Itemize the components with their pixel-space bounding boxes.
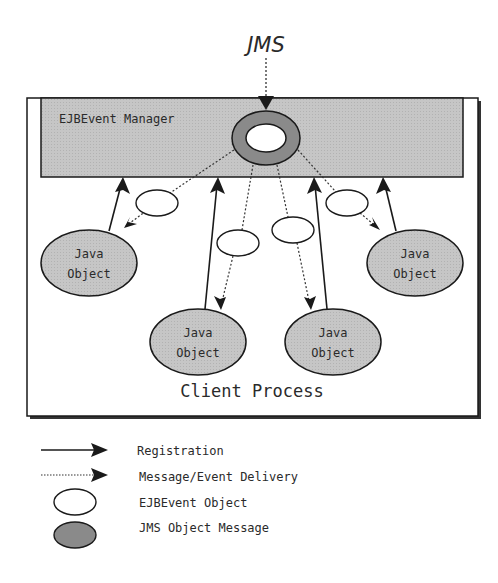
ejbevent-object-icon [326,190,368,216]
ejbevent-object-icon [246,124,286,152]
manager-label: EJBEvent Manager [59,112,175,126]
client-process-label: Client Process [180,381,323,401]
java-object-label: Object [393,267,436,281]
java-object-4 [367,230,463,296]
legend-label-registration: Registration [137,444,224,458]
legend-label-jms-message: JMS Object Message [139,521,269,535]
java-object-3 [285,309,381,375]
java-object-2 [150,309,246,375]
legend-ejbevent-object-icon [54,489,96,515]
legend-jms-message-icon [54,522,96,548]
ejbevent-object-icon [217,230,259,256]
java-object-label: Java [75,247,104,261]
ejbevent-diagram: JMS EJBEvent Manager Client Process Java… [0,0,498,583]
java-object-label: Java [319,326,348,340]
ejbevent-object-icon [272,217,314,243]
java-object-label: Java [184,326,213,340]
java-object-label: Object [311,346,354,360]
java-object-label: Object [176,346,219,360]
legend-dotted-arrowhead-icon [91,468,108,482]
java-object-1 [41,230,137,296]
legend-label-ejbevent-object: EJBEvent Object [139,496,247,510]
legend-label-delivery: Message/Event Delivery [139,470,298,484]
java-object-label: Java [401,247,430,261]
ejbevent-object-icon [136,190,178,216]
jms-label: JMS [243,33,285,57]
java-object-label: Object [67,267,110,281]
